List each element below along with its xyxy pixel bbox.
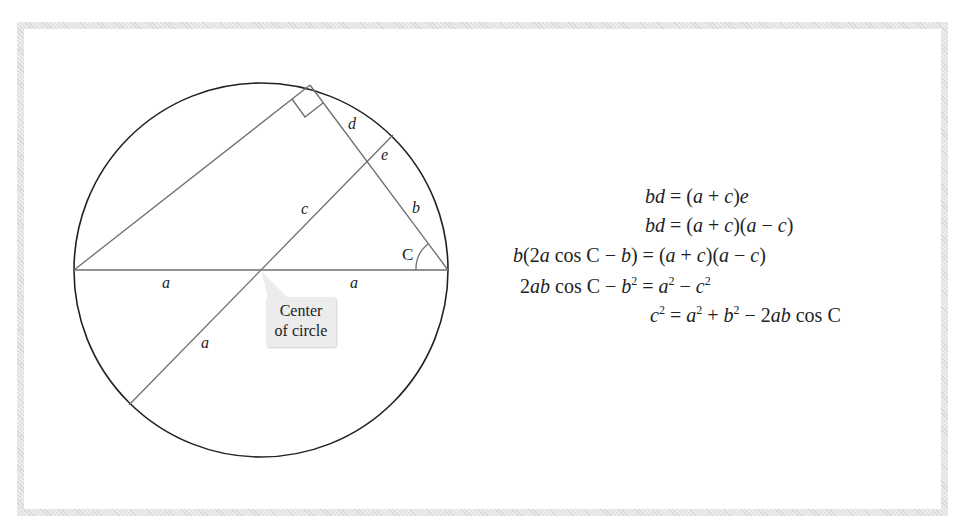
equation-3: b(2a cos C − b) = (a + c)(a − c) [513,244,766,267]
label-a-left: a [162,275,170,291]
equation-2: bd = (a + c)(a − c) [645,214,793,237]
equation-4: 2ab cos C − b2 = a2 − c2 [520,274,711,298]
label-angle-C: C [402,246,413,263]
label-d: d [348,116,356,132]
equation-5-text: c2 = a2 + b2 − 2ab cos C [650,304,841,326]
equation-2-text: bd = (a + c)(a − c) [645,214,793,236]
label-c: c [301,201,308,217]
equation-5: c2 = a2 + b2 − 2ab cos C [650,303,841,327]
callout-line-2: of circle [266,321,336,341]
right-angle-marker [292,99,323,117]
equation-4-text: 2ab cos C − b2 = a2 − c2 [520,275,711,297]
callout-pointer [262,272,290,300]
label-b: b [412,200,420,216]
equation-1-text: bd = (a + c)e [645,185,749,207]
chord-left [74,85,310,270]
callout-line-1: Center [266,301,336,321]
chord-b-d [310,85,448,270]
label-a-right: a [350,275,358,291]
label-e: e [381,147,388,163]
equation-1: bd = (a + c)e [645,185,749,208]
equation-3-text: b(2a cos C − b) = (a + c)(a − c) [513,244,766,266]
circle-diagram [0,0,965,525]
label-a-lower: a [201,335,209,351]
center-of-circle-callout: Center of circle [266,297,336,347]
angle-arc [416,244,428,270]
